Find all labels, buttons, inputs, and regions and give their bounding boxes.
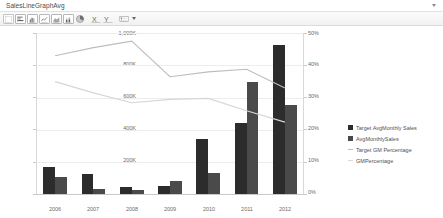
y-axis-right-tickmark: [304, 65, 307, 66]
y-axis-right-tick: 50%: [308, 30, 338, 36]
line-target-gm-percentage: [55, 41, 285, 88]
y-axis-right-tickmark: [304, 129, 307, 130]
bar-chart-button[interactable]: [15, 14, 26, 24]
chart-report-panel: SalesLineGraphAvg: [0, 0, 443, 218]
pie-chart-icon: [75, 14, 85, 24]
x-axis-button[interactable]: X: [91, 14, 101, 24]
legend-item[interactable]: Target AvgMonthly Sales: [348, 122, 440, 133]
chart-legend: Target AvgMonthly Sales AvgMonthlySales …: [348, 122, 440, 166]
panel-title-bar: SalesLineGraphAvg: [0, 0, 443, 12]
legend-swatch-icon: [348, 136, 353, 141]
y-axis-right-tick: 40%: [308, 61, 338, 67]
x-axis-tick: 2007: [74, 206, 112, 212]
legend-item[interactable]: AvgMonthlySales: [348, 133, 440, 144]
legend-icon: [119, 14, 129, 24]
chevron-down-icon[interactable]: [432, 4, 436, 7]
svg-text:X: X: [92, 15, 97, 22]
legend-item[interactable]: GMPercentage: [348, 155, 440, 166]
line-chart-button[interactable]: [39, 14, 50, 24]
y-axis-right-tick: 20%: [308, 125, 338, 131]
legend-label: GMPercentage: [356, 158, 393, 164]
y-axis-right-tickmark: [304, 97, 307, 98]
line-series-group: [36, 33, 304, 195]
x-axis-tick: 2012: [266, 206, 304, 212]
column-chart-icon: [29, 16, 36, 23]
stacked-chart-icon: [65, 16, 72, 23]
legend-label: Target GM Percentage: [356, 147, 412, 153]
new-chart-button[interactable]: [3, 14, 14, 24]
legend-button[interactable]: [119, 14, 129, 24]
x-axis-tick: 2006: [36, 206, 74, 212]
y-axis-right-tick: 10%: [308, 157, 338, 163]
y-axis-right-tickmark: [304, 162, 307, 163]
x-axis-tick: 2011: [228, 206, 266, 212]
stacked-chart-button[interactable]: [63, 14, 74, 24]
y-axis-right-tick: 30%: [308, 93, 338, 99]
y-axis-right-tick: 0%: [308, 189, 338, 195]
area-chart-icon: [53, 16, 60, 23]
y-axis-right-tickmark: [304, 33, 307, 34]
legend-item[interactable]: Target GM Percentage: [348, 144, 440, 155]
x-axis-tick: 2009: [151, 206, 189, 212]
plot-area: [36, 33, 304, 195]
legend-dropdown-chevron-down-icon[interactable]: [132, 17, 136, 20]
legend-label: Target AvgMonthly Sales: [356, 125, 417, 131]
legend-label: AvgMonthlySales: [356, 136, 399, 142]
y-axis-icon: Y: [103, 14, 113, 24]
legend-line-icon: [348, 147, 353, 152]
svg-text:Y: Y: [104, 15, 109, 22]
x-axis-tick: 2008: [113, 206, 151, 212]
area-chart-button[interactable]: [51, 14, 62, 24]
column-chart-button[interactable]: [27, 14, 38, 24]
y-axis-right-tickmark: [304, 194, 307, 195]
pie-chart-button[interactable]: [75, 14, 85, 24]
bar-chart-icon: [17, 16, 24, 23]
line-gm-percentage: [55, 82, 285, 123]
chart-toolbar: X Y: [0, 12, 443, 26]
x-axis-tick: 2010: [190, 206, 228, 212]
legend-line-icon: [348, 158, 353, 163]
legend-swatch-icon: [348, 125, 353, 130]
x-axis-icon: X: [91, 14, 101, 24]
page-title: SalesLineGraphAvg: [6, 2, 65, 9]
blank-page-icon: [5, 16, 12, 23]
y-axis-button[interactable]: Y: [103, 14, 113, 24]
chart-canvas: 1,000K 800K 600K 400K 200K 0K 50% 40% 30…: [0, 26, 443, 218]
line-chart-icon: [41, 16, 48, 23]
